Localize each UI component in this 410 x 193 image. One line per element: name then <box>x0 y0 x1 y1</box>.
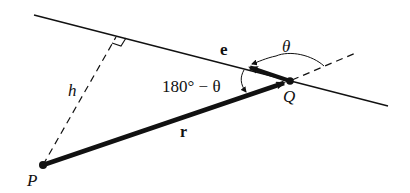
label-p: P <box>27 172 37 189</box>
point-q <box>286 77 294 85</box>
r-extension-dashed <box>292 52 358 80</box>
angle-supplement-arc <box>241 70 246 92</box>
label-e: e <box>220 41 228 58</box>
label-theta: θ <box>282 38 290 55</box>
label-r: r <box>180 124 187 140</box>
point-p <box>39 161 47 169</box>
label-h: h <box>68 82 77 99</box>
label-180-minus-theta: 180° − θ <box>162 78 221 95</box>
vector-distance-diagram: h P Q r e θ 180° − θ <box>0 0 410 193</box>
diagram-canvas <box>0 0 410 193</box>
label-q: Q <box>283 88 295 105</box>
vector-e-arrow <box>250 68 290 82</box>
